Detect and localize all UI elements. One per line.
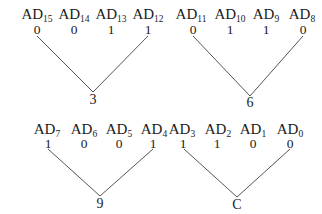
bit-value: 1	[45, 136, 52, 151]
label-subscript: 0	[298, 129, 303, 139]
hex-digit-result: 6	[247, 95, 254, 110]
label-base: AD	[176, 6, 198, 22]
nibble-group: AD15AD14AD13AD1200113	[21, 6, 163, 107]
label-base: AD	[169, 121, 191, 137]
bit-value: 1	[227, 22, 234, 37]
bit-value: 0	[34, 22, 41, 37]
bit-value: 1	[263, 22, 270, 37]
hex-digit-result: 3	[90, 92, 97, 107]
bit-value: 0	[71, 22, 78, 37]
hex-digit-result: C	[232, 197, 241, 212]
nibble-group: AD3AD2AD1AD01100C	[169, 121, 304, 212]
label-subscript: 13	[117, 14, 127, 24]
bit-value: 0	[190, 22, 197, 37]
connector-line	[100, 149, 153, 196]
bit-value: 0	[287, 136, 294, 151]
bit-value: 0	[250, 136, 257, 151]
label-base: AD	[289, 6, 311, 22]
label-base: AD	[240, 121, 262, 137]
label-base: AD	[58, 6, 80, 22]
bit-value: 1	[145, 22, 152, 37]
bit-value: 0	[81, 136, 88, 151]
label-base: AD	[34, 121, 56, 137]
connector-line	[184, 149, 237, 197]
label-base: AD	[132, 6, 154, 22]
label-base: AD	[95, 6, 117, 22]
label-subscript: 4	[162, 129, 167, 139]
label-subscript: 2	[226, 129, 231, 139]
connector-line	[237, 149, 290, 197]
bit-value: 1	[180, 136, 187, 151]
label-subscript: 3	[190, 129, 195, 139]
label-base: AD	[253, 6, 275, 22]
label-subscript: 14	[80, 14, 90, 24]
label-subscript: 6	[92, 129, 97, 139]
label-base: AD	[277, 121, 299, 137]
label-subscript: 12	[154, 14, 164, 24]
label-subscript: 15	[43, 14, 53, 24]
bit-value: 1	[150, 136, 157, 151]
nibble-group: AD7AD6AD5AD410019	[34, 121, 168, 211]
label-base: AD	[214, 6, 236, 22]
hex-digit-result: 9	[97, 196, 104, 211]
bit-value: 1	[108, 22, 115, 37]
label-base: AD	[21, 6, 43, 22]
label-base: AD	[71, 121, 93, 137]
bit-value: 0	[300, 22, 307, 37]
label-subscript: 9	[274, 14, 279, 24]
label-subscript: 11	[197, 14, 206, 24]
label-base: AD	[205, 121, 227, 137]
binary-to-hex-diagram: AD15AD14AD13AD1200113AD11AD10AD9AD801106…	[0, 0, 322, 214]
label-subscript: 1	[261, 129, 266, 139]
connector-line	[193, 36, 250, 96]
connector-line	[48, 149, 100, 196]
connector-line	[93, 36, 148, 92]
label-base: AD	[106, 121, 128, 137]
label-subscript: 5	[127, 129, 132, 139]
bit-value: 1	[214, 136, 221, 151]
connector-line	[37, 36, 93, 92]
label-subscript: 8	[310, 14, 315, 24]
bit-value: 0	[116, 136, 123, 151]
label-base: AD	[141, 121, 163, 137]
label-subscript: 7	[55, 129, 60, 139]
connector-line	[250, 36, 303, 96]
label-subscript: 10	[236, 14, 246, 24]
nibble-group: AD11AD10AD9AD801106	[176, 6, 316, 110]
